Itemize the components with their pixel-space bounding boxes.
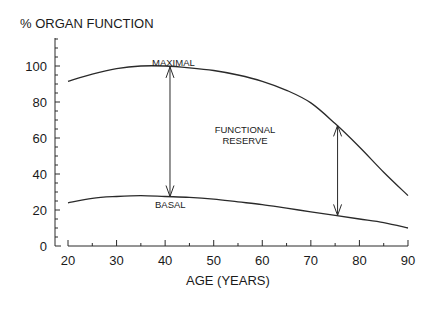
x-tick-label: 20 bbox=[61, 253, 75, 268]
functional-reserve-label-line2: RESERVE bbox=[212, 135, 278, 146]
y-tick-label: 20 bbox=[33, 203, 47, 218]
x-tick-label: 60 bbox=[255, 253, 269, 268]
y-tick-label: 80 bbox=[33, 95, 47, 110]
y-tick-label: 60 bbox=[33, 131, 47, 146]
y-axis-title: % ORGAN FUNCTION bbox=[20, 16, 154, 31]
x-tick-label: 90 bbox=[401, 253, 415, 268]
basal-label: BASAL bbox=[155, 199, 186, 210]
x-tick-label: 30 bbox=[109, 253, 123, 268]
x-tick-label: 50 bbox=[206, 253, 220, 268]
y-tick-label: 100 bbox=[25, 59, 47, 74]
x-tick-label: 70 bbox=[304, 253, 318, 268]
chart-canvas: 0204060801002030405060708090 bbox=[0, 0, 443, 309]
functional-reserve-label-line1: FUNCTIONAL bbox=[212, 124, 278, 135]
x-tick-label: 80 bbox=[352, 253, 366, 268]
y-tick-label: 0 bbox=[40, 239, 47, 254]
series-line-basal bbox=[68, 196, 408, 228]
maximal-label: MAXIMAL bbox=[152, 57, 195, 68]
x-tick-label: 40 bbox=[158, 253, 172, 268]
y-tick-label: 40 bbox=[33, 167, 47, 182]
x-axis-title: AGE (YEARS) bbox=[186, 273, 270, 288]
